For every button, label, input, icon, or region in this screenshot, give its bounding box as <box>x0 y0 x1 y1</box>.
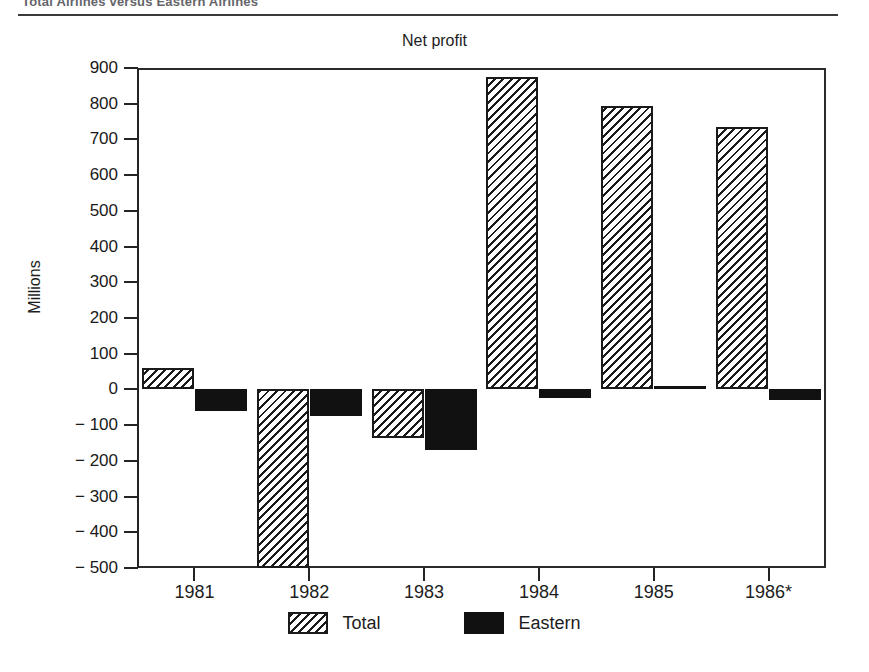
x-tick-label: 1986* <box>745 582 792 603</box>
y-tick-label: 300 <box>90 272 118 291</box>
y-tick <box>124 353 138 355</box>
legend-label-eastern: Eastern <box>518 613 580 634</box>
y-tick <box>124 67 138 69</box>
y-tick-label: 100 <box>90 344 118 363</box>
chart-page: Total Airlines versus Eastern Airlines N… <box>0 0 869 672</box>
y-tick-label: 200 <box>90 308 118 327</box>
y-tick <box>124 246 138 248</box>
y-tick-label: 900 <box>90 58 118 77</box>
y-tick-label-wrap: − 200 <box>0 451 118 471</box>
bar-eastern-1986 <box>769 389 821 400</box>
y-tick <box>124 138 138 140</box>
y-tick-label-wrap: 100 <box>0 344 118 364</box>
chart-legend: Total Eastern <box>0 612 869 634</box>
y-tick-label-wrap: 0 <box>0 379 118 399</box>
y-tick-label-wrap: 700 <box>0 129 118 149</box>
y-tick <box>124 103 138 105</box>
x-tick <box>768 568 770 581</box>
y-tick-label: 400 <box>90 237 118 256</box>
y-tick-label-wrap: 500 <box>0 201 118 221</box>
y-tick-label: − 200 <box>75 451 118 470</box>
x-tick <box>308 568 310 581</box>
legend-item-total: Total <box>288 612 380 634</box>
y-tick-label-wrap: 600 <box>0 165 118 185</box>
y-tick-label-wrap: 800 <box>0 94 118 114</box>
y-tick-label-wrap: − 500 <box>0 558 118 578</box>
legend-item-eastern: Eastern <box>464 612 580 634</box>
y-tick-label: 600 <box>90 165 118 184</box>
bar-eastern-1984 <box>539 389 591 398</box>
x-tick-label: 1983 <box>404 582 444 603</box>
y-tick-label: − 300 <box>75 487 118 506</box>
running-header: Total Airlines versus Eastern Airlines <box>22 0 258 9</box>
y-tick <box>124 460 138 462</box>
y-tick-label-wrap: − 400 <box>0 522 118 542</box>
legend-swatch-eastern-icon <box>464 612 504 634</box>
bar-total-1985 <box>601 106 653 390</box>
x-tick <box>423 568 425 581</box>
y-tick <box>124 388 138 390</box>
legend-swatch-total-icon <box>288 612 328 634</box>
bar-eastern-1983 <box>425 389 477 450</box>
y-tick-label-wrap: 300 <box>0 272 118 292</box>
bar-eastern-1981 <box>195 389 247 410</box>
x-tick-label: 1984 <box>519 582 559 603</box>
x-tick <box>538 568 540 581</box>
y-tick <box>124 531 138 533</box>
x-tick-label: 1981 <box>174 582 214 603</box>
y-tick-label-wrap: 900 <box>0 58 118 78</box>
y-tick-label: − 500 <box>75 558 118 577</box>
y-tick-label-wrap: 200 <box>0 308 118 328</box>
y-tick <box>124 317 138 319</box>
x-tick-label: 1985 <box>634 582 674 603</box>
y-tick <box>124 174 138 176</box>
bar-total-1981 <box>142 368 194 389</box>
y-tick <box>124 567 138 569</box>
y-tick <box>124 210 138 212</box>
chart-title: Net profit <box>0 32 869 50</box>
y-tick-label-wrap: − 100 <box>0 415 118 435</box>
header-rule <box>18 14 838 16</box>
bar-total-1982 <box>257 389 309 568</box>
y-tick-label-wrap: − 300 <box>0 487 118 507</box>
x-tick-label: 1982 <box>289 582 329 603</box>
y-tick-label: − 400 <box>75 522 118 541</box>
x-tick <box>653 568 655 581</box>
y-tick <box>124 281 138 283</box>
legend-label-total: Total <box>342 613 380 634</box>
bar-total-1983 <box>372 389 424 437</box>
bar-total-1984 <box>486 77 538 390</box>
y-tick-label: 800 <box>90 94 118 113</box>
bar-eastern-1982 <box>310 389 362 416</box>
y-tick-label: 500 <box>90 201 118 220</box>
y-tick <box>124 424 138 426</box>
y-tick <box>124 496 138 498</box>
y-tick-label-wrap: 400 <box>0 237 118 257</box>
y-tick-label: 0 <box>109 379 118 398</box>
y-tick-label: 700 <box>90 129 118 148</box>
bar-eastern-1985 <box>654 386 706 390</box>
y-tick-label: − 100 <box>75 415 118 434</box>
x-tick <box>193 568 195 581</box>
bar-total-1986 <box>716 127 768 390</box>
